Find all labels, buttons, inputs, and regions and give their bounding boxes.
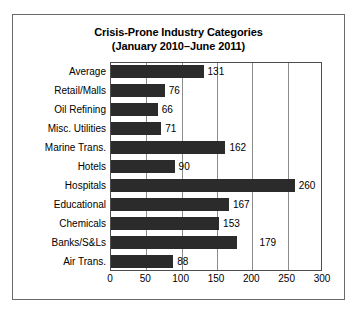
bar-value-label: 71 (165, 121, 176, 136)
bar-row: 90 (111, 158, 321, 177)
bar-row: 76 (111, 82, 321, 101)
y-axis-category-label: Hotels (19, 157, 106, 176)
bar (111, 141, 225, 154)
x-axis-tick-label: 300 (314, 273, 331, 284)
bar-row: 71 (111, 120, 321, 139)
bar (111, 255, 173, 268)
x-axis-tick-labels: 050100150200250300 (110, 273, 322, 289)
bar-value-label: 167 (233, 197, 250, 212)
bar-value-label: 162 (229, 140, 246, 155)
x-axis-tick-label: 0 (107, 273, 113, 284)
bar-value-label: 153 (223, 216, 240, 231)
y-axis-category-label: Oil Refining (19, 100, 106, 119)
bar-row: 260 (111, 177, 321, 196)
bar-value-label: 88 (177, 254, 188, 269)
bar (111, 84, 165, 97)
y-axis-category-labels: AverageRetail/MallsOil RefiningMisc. Uti… (19, 62, 106, 271)
y-axis-category-label: Average (19, 62, 106, 81)
bar-row: 88 (111, 253, 321, 272)
bar (111, 198, 229, 211)
bar-value-label: 179 (259, 235, 276, 250)
bar (111, 122, 161, 135)
bar-value-label: 66 (162, 102, 173, 117)
chart-title: Crisis-Prone Industry Categories (Januar… (13, 25, 344, 53)
bar-value-label: 131 (208, 64, 225, 79)
chart-title-main: Crisis-Prone Industry Categories (94, 26, 263, 38)
bar-value-label: 76 (169, 83, 180, 98)
y-axis-category-label: Chemicals (19, 214, 106, 233)
bar-row: 162 (111, 139, 321, 158)
x-axis-tick-label: 50 (140, 273, 151, 284)
bar (111, 217, 219, 230)
chart-frame: Crisis-Prone Industry Categories (Januar… (12, 14, 345, 300)
bar (111, 160, 175, 173)
y-axis-category-label: Retail/Malls (19, 81, 106, 100)
bar-row: 66 (111, 101, 321, 120)
x-axis-tick-label: 100 (172, 273, 189, 284)
x-axis-tick-label: 150 (208, 273, 225, 284)
bar-row: 179 (111, 234, 321, 253)
bar-row: 167 (111, 196, 321, 215)
bar-value-label: 90 (179, 159, 190, 174)
bar-row: 131 (111, 63, 321, 82)
y-axis-category-label: Air Trans. (19, 252, 106, 271)
y-axis-category-label: Educational (19, 195, 106, 214)
bar (111, 103, 158, 116)
bar-row: 153 (111, 215, 321, 234)
x-axis-tick-label: 250 (278, 273, 295, 284)
bar (111, 236, 237, 249)
plot-area: 1317666711629026016715317988 (110, 62, 322, 271)
bar (111, 65, 204, 78)
y-axis-category-label: Misc. Utilities (19, 119, 106, 138)
bar-value-label: 260 (299, 178, 316, 193)
y-axis-category-label: Hospitals (19, 176, 106, 195)
y-axis-category-label: Banks/S&Ls (19, 233, 106, 252)
bar-series: 1317666711629026016715317988 (111, 63, 321, 270)
bar (111, 179, 295, 192)
y-axis-category-label: Marine Trans. (19, 138, 106, 157)
x-axis-tick-label: 200 (243, 273, 260, 284)
chart-title-subtitle: (January 2010–June 2011) (13, 39, 344, 53)
